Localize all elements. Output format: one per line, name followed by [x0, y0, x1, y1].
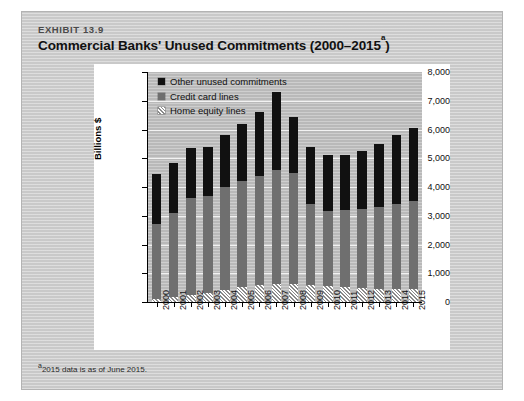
x-tick-mark [191, 303, 192, 307]
legend-label: Home equity lines [170, 105, 246, 116]
chart-card: Billions $ 01,0002,0003,0004,0005,0006,0… [94, 64, 450, 350]
x-tick-mark [174, 303, 175, 307]
x-tick-mark [208, 303, 209, 307]
bar-segment-other [340, 155, 350, 210]
bar-segment-other [220, 135, 230, 187]
x-tick-label: 2011 [349, 291, 359, 310]
bar-column[interactable] [409, 72, 419, 302]
exhibit-label: EXHIBIT 13.9 [38, 24, 104, 35]
x-tick-mark [311, 303, 312, 307]
bar-segment-home [289, 284, 299, 302]
bar-segment-other [152, 174, 162, 224]
plot-area: Other unused commitmentsCredit card line… [148, 72, 422, 302]
bar-segment-other [255, 112, 265, 175]
exhibit-title-superscript: a [381, 33, 385, 42]
footnote-text: 2015 data is as of June 2015. [42, 365, 147, 374]
bar-segment-other [169, 163, 179, 213]
exhibit-title-text: Commercial Banks' Unused Commitments (20… [38, 38, 381, 53]
x-tick-mark [362, 303, 363, 307]
page-title: Commercial Banks' Unused Commitments (20… [38, 37, 390, 53]
bar-segment-other [374, 144, 384, 207]
legend-swatch-credit-icon [158, 93, 165, 100]
bar-segment-credit [374, 207, 384, 288]
bar-segment-credit [186, 198, 196, 295]
x-tick-mark [157, 303, 158, 307]
legend-swatch-other-icon [158, 78, 165, 85]
bar-segment-credit [255, 176, 265, 285]
legend-label: Credit card lines [170, 91, 239, 102]
legend-label: Other unused commitments [170, 76, 287, 87]
bar-segment-credit [203, 196, 213, 293]
bar-segment-credit [289, 173, 299, 285]
x-tick-label: 2004 [229, 290, 239, 310]
bar-segment-other [306, 147, 316, 205]
x-tick-label: 2006 [263, 290, 273, 310]
x-tick-label: 2001 [178, 290, 188, 310]
x-tick-label: 2013 [383, 290, 393, 310]
bar-segment-credit [237, 181, 247, 287]
x-tick-label: 2015 [417, 290, 427, 310]
bar-segment-other [186, 148, 196, 197]
x-tick-mark [276, 303, 277, 307]
bar-segment-credit [152, 224, 162, 298]
bar-segment-credit [169, 213, 179, 297]
bar-segment-other [289, 117, 299, 173]
exhibit-panel: EXHIBIT 13.9 Commercial Banks' Unused Co… [22, 12, 502, 389]
bar-segment-other [203, 147, 213, 196]
bar-segment-credit [323, 211, 333, 286]
bar-column[interactable] [306, 72, 316, 302]
y-axis-label: Billions $ [92, 118, 103, 160]
legend-item[interactable]: Home equity lines [158, 105, 287, 116]
bar-segment-credit [220, 187, 230, 290]
x-tick-label: 2002 [195, 290, 205, 310]
x-tick-mark [328, 303, 329, 307]
x-tick-mark [225, 303, 226, 307]
bar-segment-credit [357, 209, 367, 288]
bar-segment-credit [272, 170, 282, 284]
x-tick-mark [345, 303, 346, 307]
x-tick-mark [259, 303, 260, 307]
bar-column[interactable] [289, 72, 299, 302]
bar-segment-other [409, 128, 419, 201]
exhibit-title-close: ) [385, 38, 389, 53]
x-tick-label: 2008 [298, 290, 308, 310]
x-tick-label: 2014 [400, 290, 410, 310]
bar-segment-credit [392, 204, 402, 289]
footnote: a2015 data is as of June 2015. [38, 362, 147, 374]
chart-legend: Other unused commitmentsCredit card line… [158, 76, 287, 120]
legend-item[interactable]: Other unused commitments [158, 76, 287, 87]
bar-segment-other [323, 155, 333, 210]
bar-segment-other [392, 135, 402, 204]
bar-column[interactable] [392, 72, 402, 302]
x-tick-mark [396, 303, 397, 307]
legend-item[interactable]: Credit card lines [158, 91, 287, 102]
x-tick-mark [242, 303, 243, 307]
x-tick-mark [413, 303, 414, 307]
bar-column[interactable] [357, 72, 367, 302]
x-tick-mark [294, 303, 295, 307]
x-tick-label: 2005 [246, 290, 256, 310]
bar-segment-credit [409, 201, 419, 289]
legend-swatch-home-icon [158, 107, 165, 114]
bar-column[interactable] [374, 72, 384, 302]
x-tick-label: 2009 [315, 290, 325, 310]
bar-column[interactable] [340, 72, 350, 302]
x-tick-label: 2000 [161, 290, 171, 310]
x-tick-label: 2010 [332, 290, 342, 310]
bar-segment-credit [306, 204, 316, 285]
bar-segment-home [152, 299, 162, 302]
bar-segment-credit [340, 210, 350, 287]
x-tick-label: 2003 [212, 290, 222, 310]
x-tick-label: 2012 [366, 290, 376, 310]
bar-column[interactable] [323, 72, 333, 302]
x-tick-mark [379, 303, 380, 307]
bar-segment-other [237, 124, 247, 182]
x-tick-label: 2007 [280, 290, 290, 310]
bar-segment-other [357, 151, 367, 209]
